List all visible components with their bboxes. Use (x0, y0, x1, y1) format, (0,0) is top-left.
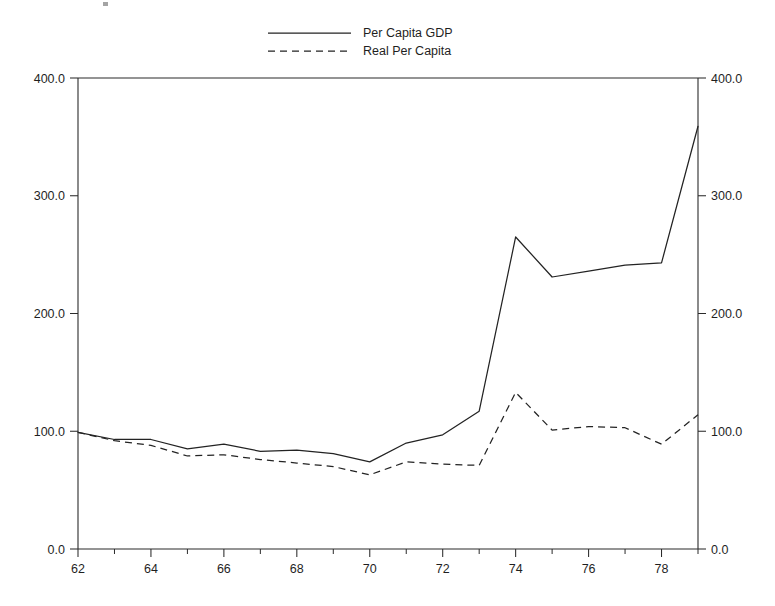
x-tick-label-72: 72 (436, 562, 450, 576)
y-tick-label-right-400.0: 400.0 (711, 72, 742, 86)
y-tick-label-right-0.0: 0.0 (711, 543, 728, 557)
y-tick-label-left-400.0: 400.0 (34, 72, 65, 86)
x-tick-label-76: 76 (582, 562, 596, 576)
x-tick-label-70: 70 (363, 562, 377, 576)
y-tick-label-right-200.0: 200.0 (711, 307, 742, 321)
y-tick-label-left-200.0: 200.0 (34, 307, 65, 321)
y-tick-label-left-100.0: 100.0 (34, 425, 65, 439)
x-tick-label-78: 78 (655, 562, 669, 576)
plot-frame (78, 78, 698, 549)
x-tick-label-62: 62 (71, 562, 85, 576)
chart-container: Per Capita GDP Real Per Capita 0.0100.02… (0, 0, 775, 606)
x-axis: 626466687072747678 (71, 549, 698, 576)
chart-legend: Per Capita GDP Real Per Capita (268, 26, 453, 58)
x-tick-label-66: 66 (217, 562, 231, 576)
y-axis-left: 0.0100.0200.0300.0400.0 (34, 72, 78, 557)
line-chart: Per Capita GDP Real Per Capita 0.0100.02… (0, 0, 775, 606)
chart-series-group (78, 126, 698, 475)
scan-artifact-speck (103, 2, 108, 6)
legend-label-real-per-capita: Real Per Capita (363, 44, 451, 58)
x-tick-label-68: 68 (290, 562, 304, 576)
x-tick-label-64: 64 (144, 562, 158, 576)
series-line-real-per-capita (78, 392, 698, 474)
y-tick-label-left-0.0: 0.0 (48, 543, 65, 557)
y-tick-label-right-300.0: 300.0 (711, 189, 742, 203)
series-line-per-capita-gdp (78, 126, 698, 462)
y-tick-label-left-300.0: 300.0 (34, 189, 65, 203)
y-axis-right: 0.0100.0200.0300.0400.0 (698, 72, 742, 557)
y-tick-label-right-100.0: 100.0 (711, 425, 742, 439)
legend-label-per-capita-gdp: Per Capita GDP (363, 26, 453, 40)
x-tick-label-74: 74 (509, 562, 523, 576)
